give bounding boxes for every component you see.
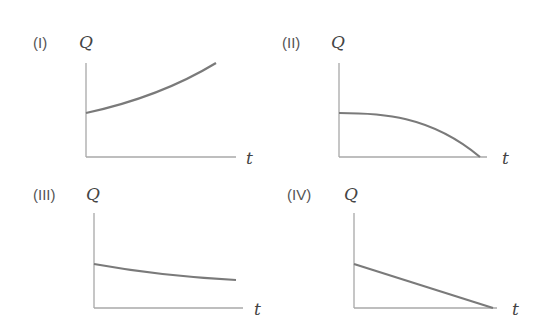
curve	[94, 264, 236, 280]
panel-3: (III) Q t	[33, 184, 261, 319]
y-axis-label: Q	[331, 32, 345, 52]
x-axis-label: t	[254, 299, 261, 319]
y-axis-label: Q	[79, 32, 93, 52]
panel-label: (II)	[282, 34, 300, 51]
x-axis-label: t	[502, 148, 509, 168]
panel-label: (IV)	[287, 186, 311, 203]
curve	[86, 63, 216, 113]
graph-figure: (I) Q t (II) Q t (III) Q t (IV) Q t	[0, 0, 541, 335]
panel-1: (I) Q t	[33, 32, 253, 168]
panel-label: (III)	[33, 186, 56, 203]
panel-2: (II) Q t	[282, 32, 509, 168]
y-axis-label: Q	[86, 184, 100, 204]
panel-4: (IV) Q t	[287, 184, 519, 319]
panel-label: (I)	[33, 34, 47, 51]
y-axis-label: Q	[344, 184, 358, 204]
curve	[354, 264, 493, 308]
curve	[339, 113, 480, 157]
x-axis-label: t	[512, 299, 519, 319]
x-axis-label: t	[246, 148, 253, 168]
